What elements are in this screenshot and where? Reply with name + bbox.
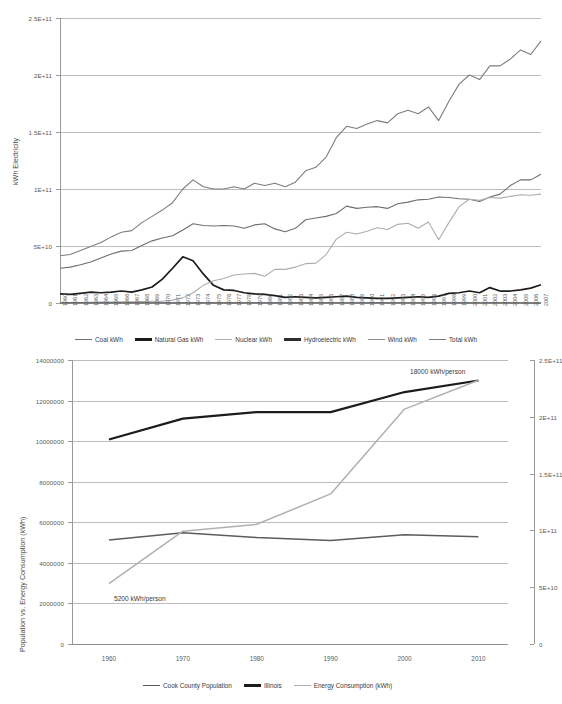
x-axis-tick-label: 1969 bbox=[154, 294, 160, 306]
legend-swatch-icon bbox=[75, 339, 92, 341]
x-axis-tick-label: 2006 bbox=[533, 294, 539, 306]
chart2-y-axis-title: Population vs. Energy Consumption (kWh) bbox=[18, 517, 27, 652]
legend-swatch-icon bbox=[215, 339, 232, 341]
secondary-y-axis-line bbox=[534, 360, 535, 644]
legend-label: Total kWh bbox=[449, 336, 477, 343]
x-axis-tick-label: 1980 bbox=[267, 294, 273, 306]
chart1-y-axis-title: kWh Electricity bbox=[11, 138, 20, 185]
x-axis-tick-label: 2002 bbox=[492, 294, 498, 306]
legend-label: Coal kWh bbox=[95, 336, 123, 343]
chart1-plot-area: 05E+101E+111.5E+112E+112.5E+111960196119… bbox=[60, 18, 541, 303]
x-axis-tick-label: 2001 bbox=[482, 294, 488, 306]
x-axis-tick-label: 1966 bbox=[124, 294, 130, 306]
x-axis-tick-label: 1999 bbox=[461, 294, 467, 306]
chart1-legend: Coal kWhNatural Gas kWhNuclear kWhHydroe… bbox=[75, 336, 477, 343]
x-axis-tick-label: 2007 bbox=[543, 294, 549, 306]
x-axis-tick-label: 1994 bbox=[410, 294, 416, 306]
y-axis-tick-label: 2E+11 bbox=[34, 72, 52, 79]
legend-label: Natural Gas kWh bbox=[155, 336, 204, 343]
x-axis-tick-label: 2000 bbox=[472, 294, 478, 306]
legend-item[interactable]: Illinois bbox=[244, 682, 282, 689]
y-axis-tick-label: 6000000 bbox=[39, 519, 64, 526]
y-axis-tick-label: 0 bbox=[48, 300, 52, 307]
data-series-line bbox=[109, 380, 478, 583]
secondary-y-tick-mark bbox=[530, 530, 534, 531]
data-series-line bbox=[109, 533, 478, 541]
y-axis-tick-label: 2.5E+11 bbox=[29, 15, 52, 22]
chart-annotation: 5200 kWh/person bbox=[114, 595, 166, 602]
gridline bbox=[72, 644, 508, 645]
y-axis-tick-label: 4000000 bbox=[39, 559, 64, 566]
legend-item[interactable]: Energy Consumption (kWh) bbox=[294, 682, 393, 689]
x-axis-tick-label: 1990 bbox=[324, 655, 338, 662]
data-series-line bbox=[60, 194, 541, 303]
secondary-y-axis-tick-label: 1E+11 bbox=[539, 527, 557, 534]
legend-item[interactable]: Wind kWh bbox=[368, 336, 417, 343]
x-axis-tick-label: 1983 bbox=[298, 294, 304, 306]
chart1-series-layer bbox=[60, 18, 541, 303]
y-axis-tick-label: 8000000 bbox=[39, 478, 64, 485]
x-axis-tick-label: 1993 bbox=[400, 294, 406, 306]
x-axis-tick-label: 1992 bbox=[390, 294, 396, 306]
legend-swatch-icon bbox=[284, 338, 301, 340]
legend-item[interactable]: Total kWh bbox=[429, 336, 477, 343]
x-axis-tick-label: 1972 bbox=[185, 294, 191, 306]
legend-label: Energy Consumption (kWh) bbox=[314, 682, 393, 689]
legend-label: Cook County Population bbox=[163, 682, 232, 689]
y-tick-mark bbox=[56, 303, 60, 304]
legend-label: Nuclear kWh bbox=[235, 336, 272, 343]
secondary-y-axis-tick-label: 0 bbox=[539, 641, 543, 648]
legend-item[interactable]: Nuclear kWh bbox=[215, 336, 272, 343]
legend-label: Hydroelectric kWh bbox=[304, 336, 356, 343]
y-tick-mark bbox=[68, 644, 72, 645]
x-axis-tick-label: 1973 bbox=[195, 294, 201, 306]
secondary-y-tick-mark bbox=[530, 644, 534, 645]
data-series-line bbox=[60, 174, 541, 268]
legend-item[interactable]: Hydroelectric kWh bbox=[284, 336, 356, 343]
x-axis-tick-label: 1964 bbox=[103, 294, 109, 306]
y-axis-tick-label: 2000000 bbox=[39, 600, 64, 607]
legend-item[interactable]: Coal kWh bbox=[75, 336, 123, 343]
secondary-y-axis-tick-label: 2E+11 bbox=[539, 413, 557, 420]
y-axis-tick-label: 10000000 bbox=[36, 438, 64, 445]
legend-swatch-icon bbox=[368, 339, 385, 341]
secondary-y-tick-mark bbox=[530, 417, 534, 418]
x-axis-tick-label: 1978 bbox=[246, 294, 252, 306]
x-axis-tick-label: 1970 bbox=[176, 655, 190, 662]
legend-swatch-icon bbox=[143, 685, 160, 687]
population-vs-energy-chart: Population vs. Energy Consumption (kWh) … bbox=[0, 352, 559, 704]
x-axis-tick-label: 1975 bbox=[216, 294, 222, 306]
legend-swatch-icon bbox=[294, 685, 311, 687]
x-axis-tick-label: 1970 bbox=[165, 294, 171, 306]
x-axis-tick-label: 2004 bbox=[512, 294, 518, 306]
legend-swatch-icon bbox=[429, 339, 446, 341]
legend-label: Wind kWh bbox=[388, 336, 417, 343]
data-series-line bbox=[109, 380, 478, 439]
x-axis-tick-label: 1960 bbox=[102, 655, 116, 662]
x-axis-tick-label: 1981 bbox=[277, 294, 283, 306]
x-axis-tick-label: 1962 bbox=[83, 294, 89, 306]
y-axis-tick-label: 1.5E+11 bbox=[29, 129, 52, 136]
x-axis-tick-label: 1960 bbox=[62, 294, 68, 306]
y-axis-tick-label: 5E+10 bbox=[33, 243, 52, 250]
electricity-by-source-chart: kWh Electricity 05E+101E+111.5E+112E+112… bbox=[0, 0, 559, 352]
x-axis-tick-label: 1991 bbox=[379, 294, 385, 306]
legend-item[interactable]: Natural Gas kWh bbox=[135, 336, 204, 343]
x-axis-tick-label: 1963 bbox=[93, 294, 99, 306]
y-axis-tick-label: 12000000 bbox=[36, 397, 64, 404]
y-axis-tick-label: 1E+11 bbox=[34, 186, 52, 193]
secondary-y-axis-tick-label: 1.5E+11 bbox=[539, 470, 562, 477]
x-axis-tick-label: 1965 bbox=[113, 294, 119, 306]
x-axis-tick-label: 1996 bbox=[431, 294, 437, 306]
x-axis-tick-label: 1998 bbox=[451, 294, 457, 306]
y-axis-tick-label: 0 bbox=[60, 641, 64, 648]
secondary-y-axis-tick-label: 2.5E+11 bbox=[539, 357, 562, 364]
x-axis-tick-label: 1987 bbox=[339, 294, 345, 306]
legend-swatch-icon bbox=[244, 684, 261, 686]
legend-swatch-icon bbox=[135, 338, 152, 340]
legend-item[interactable]: Cook County Population bbox=[143, 682, 232, 689]
x-axis-tick-label: 1995 bbox=[420, 294, 426, 306]
chart2-legend: Cook County PopulationIllinoisEnergy Con… bbox=[143, 682, 392, 689]
y-axis-tick-label: 14000000 bbox=[36, 357, 64, 364]
